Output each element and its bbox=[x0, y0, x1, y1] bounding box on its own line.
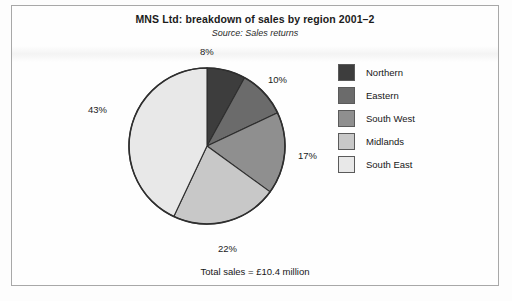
legend-item[interactable]: Eastern bbox=[338, 84, 488, 107]
chart-title: MNS Ltd: breakdown of sales by region 20… bbox=[12, 13, 498, 25]
legend-swatch bbox=[338, 64, 355, 81]
legend: NorthernEasternSouth WestMidlandsSouth E… bbox=[338, 61, 488, 176]
legend-swatch bbox=[338, 156, 355, 173]
legend-item[interactable]: South East bbox=[338, 153, 488, 176]
slice-label-eastern: 10% bbox=[268, 74, 287, 85]
total-sales-caption: Total sales = £10.4 million bbox=[12, 266, 498, 277]
legend-swatch bbox=[338, 87, 355, 104]
slice-label-northern: 8% bbox=[200, 46, 214, 57]
legend-item-label: Northern bbox=[366, 67, 403, 78]
slice-label-midlands: 22% bbox=[218, 243, 237, 254]
legend-swatch bbox=[338, 133, 355, 150]
figure-page: MNS Ltd: breakdown of sales by region 20… bbox=[0, 0, 512, 301]
legend-item[interactable]: South West bbox=[338, 107, 488, 130]
legend-item-label: Midlands bbox=[366, 136, 404, 147]
slice-label-south-east: 43% bbox=[88, 104, 107, 115]
legend-item-label: Eastern bbox=[366, 90, 399, 101]
legend-item-label: South West bbox=[366, 113, 415, 124]
legend-swatch bbox=[338, 110, 355, 127]
slice-label-south-west: 17% bbox=[298, 150, 317, 161]
legend-item-label: South East bbox=[366, 159, 412, 170]
legend-item[interactable]: Midlands bbox=[338, 130, 488, 153]
legend-item[interactable]: Northern bbox=[338, 61, 488, 84]
chart-subtitle: Source: Sales returns bbox=[12, 28, 498, 38]
